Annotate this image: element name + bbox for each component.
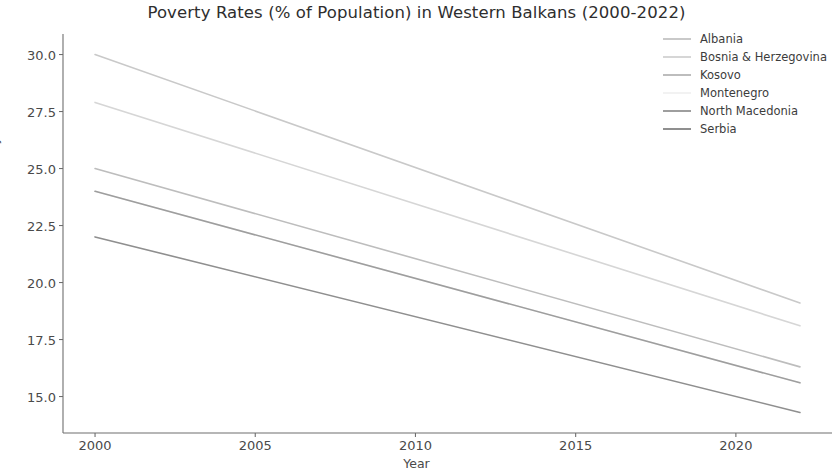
y-tick-label: 25.0 <box>8 161 56 176</box>
y-tick-label: 30.0 <box>8 47 56 62</box>
legend-item[interactable]: North Macedonia <box>663 103 833 119</box>
legend-item[interactable]: Montenegro <box>663 85 833 101</box>
legend-color-swatch <box>663 38 691 40</box>
y-tick-label: 15.0 <box>8 389 56 404</box>
x-tick-label: 2000 <box>60 438 130 453</box>
axis-ticks <box>59 55 736 437</box>
series-line <box>95 169 800 367</box>
x-tick-label: 2020 <box>701 438 771 453</box>
chart-figure: Poverty Rates (% of Population) in Weste… <box>0 0 833 475</box>
legend-color-swatch <box>663 56 691 58</box>
series-line <box>95 237 800 413</box>
x-tick-label: 2015 <box>541 438 611 453</box>
series-line <box>95 191 800 383</box>
legend-item[interactable]: Kosovo <box>663 67 833 83</box>
legend-item[interactable]: Bosnia & Herzegovina <box>663 49 833 65</box>
x-tick-label: 2010 <box>380 438 450 453</box>
legend-item-label: Serbia <box>700 122 737 136</box>
x-tick-label: 2005 <box>220 438 290 453</box>
legend-item-label: Kosovo <box>700 68 741 82</box>
y-tick-label: 17.5 <box>8 332 56 347</box>
legend-item-label: North Macedonia <box>700 104 798 118</box>
y-tick-label: 22.5 <box>8 218 56 233</box>
y-axis-label: Poverty Rate (%) <box>0 78 1 184</box>
y-tick-label: 27.5 <box>8 104 56 119</box>
legend-color-swatch <box>663 128 691 130</box>
legend-color-swatch <box>663 74 691 76</box>
legend-color-swatch <box>663 110 691 112</box>
legend-item-label: Montenegro <box>700 86 769 100</box>
legend-item[interactable]: Serbia <box>663 121 833 137</box>
y-tick-label: 20.0 <box>8 275 56 290</box>
legend-item-label: Bosnia & Herzegovina <box>700 50 827 64</box>
legend-item-label: Albania <box>700 32 743 46</box>
legend-color-swatch <box>663 92 691 94</box>
chart-legend: AlbaniaBosnia & HerzegovinaKosovoMontene… <box>663 31 833 137</box>
x-axis-label: Year <box>0 456 833 471</box>
legend-item[interactable]: Albania <box>663 31 833 47</box>
